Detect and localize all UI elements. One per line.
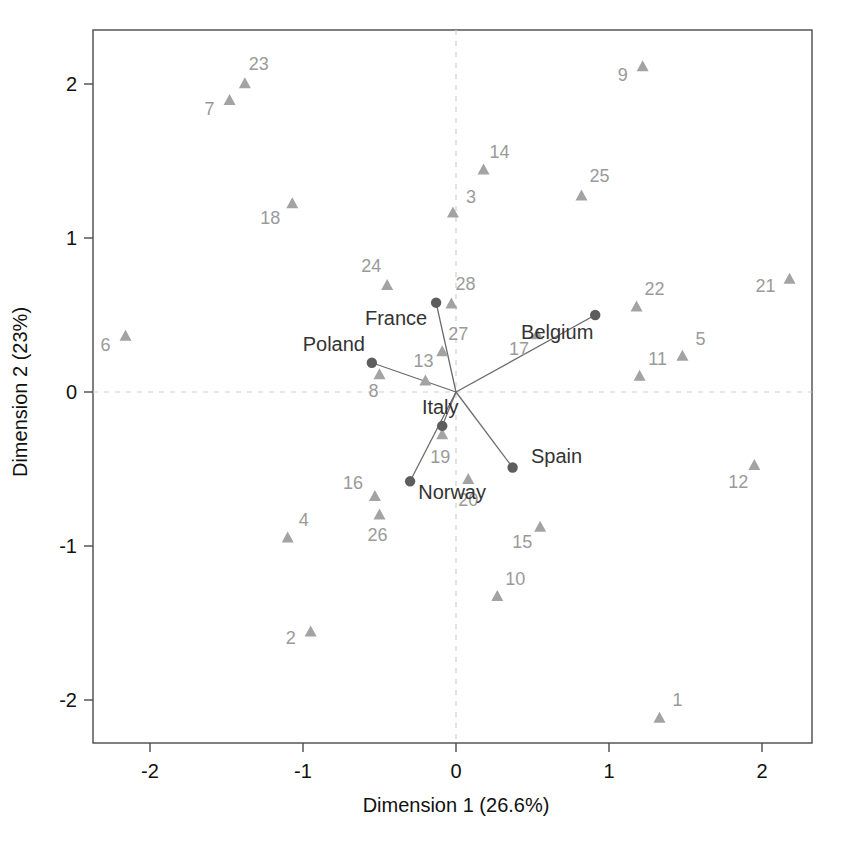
country-marker-belgium — [590, 310, 600, 320]
category-label-22: 22 — [645, 279, 665, 299]
axis-ticks: -2-1012210-1-2 — [59, 73, 767, 782]
x-tick-label: 0 — [450, 760, 461, 782]
category-marker-22 — [631, 300, 643, 311]
category-label-15: 15 — [512, 532, 532, 552]
category-label-1: 1 — [672, 690, 682, 710]
category-marker-8 — [374, 368, 386, 379]
category-label-2: 2 — [286, 628, 296, 648]
country-label-spain: Spain — [531, 445, 582, 467]
category-label-7: 7 — [205, 99, 215, 119]
y-tick-label: 2 — [66, 73, 77, 95]
country-label-poland: Poland — [303, 333, 365, 355]
category-label-6: 6 — [101, 335, 111, 355]
category-marker-7 — [224, 94, 236, 105]
category-label-24: 24 — [361, 256, 381, 276]
x-axis-title: Dimension 1 (26.6%) — [363, 794, 550, 816]
category-label-21: 21 — [756, 276, 776, 296]
country-marker-poland — [367, 358, 377, 368]
category-marker-24 — [381, 279, 393, 290]
chart-container: -2-1012210-1-2 1234567891011121314151617… — [0, 0, 849, 855]
category-marker-26 — [374, 508, 386, 519]
y-tick-label: 1 — [66, 227, 77, 249]
category-label-23: 23 — [249, 54, 269, 74]
country-label-belgium: Belgium — [521, 321, 593, 343]
plot-border — [93, 30, 812, 743]
category-marker-2 — [305, 625, 317, 636]
y-tick-label: -2 — [59, 689, 77, 711]
x-tick-label: 1 — [603, 760, 614, 782]
category-label-27: 27 — [448, 324, 468, 344]
country-label-france: France — [365, 307, 427, 329]
category-label-11: 11 — [648, 349, 667, 369]
data-labels: 1234567891011121314151617181920212223242… — [101, 54, 776, 710]
y-axis-title: Dimension 2 (23%) — [9, 307, 31, 477]
category-marker-14 — [478, 163, 490, 174]
category-marker-23 — [239, 77, 251, 88]
category-marker-9 — [637, 60, 649, 71]
category-label-13: 13 — [413, 351, 433, 371]
category-marker-25 — [575, 190, 587, 201]
category-marker-1 — [653, 712, 665, 723]
country-label-italy: Italy — [422, 396, 459, 418]
category-label-18: 18 — [260, 208, 280, 228]
category-marker-4 — [282, 531, 294, 542]
category-label-26: 26 — [367, 525, 387, 545]
category-marker-3 — [447, 207, 459, 218]
category-label-10: 10 — [505, 569, 525, 589]
spoke-line-spain — [456, 392, 513, 467]
category-marker-10 — [491, 590, 503, 601]
category-label-14: 14 — [490, 142, 510, 162]
spoke-line-france — [436, 303, 456, 392]
category-marker-12 — [748, 459, 760, 470]
y-tick-label: 0 — [66, 381, 77, 403]
y-tick-label: -1 — [59, 535, 77, 557]
zero-reference-lines — [93, 30, 812, 743]
country-marker-france — [431, 297, 441, 307]
category-label-3: 3 — [466, 187, 476, 207]
country-marker-italy — [437, 421, 447, 431]
category-marker-21 — [784, 273, 796, 284]
category-label-4: 4 — [299, 510, 309, 530]
category-label-12: 12 — [728, 472, 748, 492]
category-label-28: 28 — [455, 274, 475, 294]
x-tick-label: -1 — [294, 760, 312, 782]
category-label-16: 16 — [343, 473, 363, 493]
category-label-5: 5 — [695, 329, 705, 349]
country-label-norway: Norway — [418, 481, 486, 503]
category-label-9: 9 — [618, 65, 628, 85]
category-marker-28 — [445, 297, 457, 308]
plot-frame — [93, 30, 812, 743]
category-marker-5 — [676, 350, 688, 361]
category-marker-11 — [634, 370, 646, 381]
category-label-19: 19 — [430, 447, 450, 467]
category-label-8: 8 — [368, 381, 378, 401]
x-tick-label: -2 — [141, 760, 159, 782]
mca-biplot: -2-1012210-1-2 1234567891011121314151617… — [0, 0, 849, 855]
x-tick-label: 2 — [756, 760, 767, 782]
category-label-25: 25 — [589, 166, 609, 186]
category-marker-16 — [369, 490, 381, 501]
category-marker-6 — [120, 330, 132, 341]
category-marker-15 — [534, 521, 546, 532]
category-marker-18 — [286, 197, 298, 208]
country-marker-spain — [507, 462, 517, 472]
country-marker-norway — [405, 476, 415, 486]
